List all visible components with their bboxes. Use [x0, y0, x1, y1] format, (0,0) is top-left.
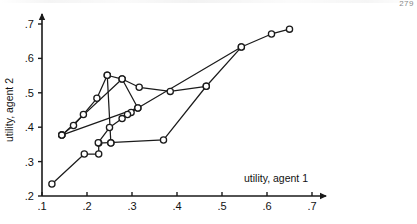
utility-scatter-plot: .2.3.4.5.6.7.1.2.3.4.5.6.7 utility, agen…	[0, 0, 417, 224]
x-tick-label: .6	[262, 200, 271, 212]
data-point-marker	[70, 122, 76, 128]
y-tick-label: .4	[25, 121, 34, 133]
data-point-marker	[95, 140, 101, 146]
x-tick-label: .3	[127, 200, 136, 212]
y-tick-label: .6	[25, 52, 34, 64]
y-tick-label: .7	[25, 18, 34, 30]
data-point-marker	[238, 44, 244, 50]
data-series	[49, 26, 293, 187]
data-point-marker	[81, 151, 87, 157]
series-polyline	[62, 47, 242, 135]
data-point-marker	[136, 84, 142, 90]
data-point-marker	[94, 95, 100, 101]
data-point-marker	[135, 105, 141, 111]
data-point-marker	[119, 76, 125, 82]
x-tick-label: .7	[307, 200, 316, 212]
x-tick-label: .1	[37, 200, 46, 212]
data-point-marker	[167, 88, 173, 94]
page-number: 279	[399, 0, 414, 8]
x-axis-title: utility, agent 1	[244, 172, 308, 184]
data-point-marker	[286, 26, 292, 32]
data-point-marker	[160, 137, 166, 143]
chart-figure: 279 .2.3.4.5.6.7.1.2.3.4.5.6.7 utility, …	[0, 0, 417, 224]
data-point-marker	[59, 132, 65, 138]
data-point-marker	[49, 181, 55, 187]
data-point-marker	[119, 116, 125, 122]
data-point-marker	[108, 140, 114, 146]
scan-artifact-band	[0, 0, 417, 3]
axis-labels: utility, agent 1utility, agent 2	[3, 78, 308, 184]
data-point-marker	[80, 111, 86, 117]
y-axis-title: utility, agent 2	[3, 78, 15, 142]
series-polyline	[52, 29, 290, 184]
x-tick-label: .2	[82, 200, 91, 212]
y-tick-label: .2	[25, 190, 34, 202]
series-polyline	[62, 79, 138, 143]
x-tick-label: .4	[172, 200, 181, 212]
data-point-marker	[104, 72, 110, 78]
data-point-marker	[106, 124, 112, 130]
y-tick-label: .5	[25, 87, 34, 99]
data-point-marker	[203, 83, 209, 89]
y-tick-label: .3	[25, 156, 34, 168]
x-tick-label: .5	[217, 200, 226, 212]
data-point-marker	[124, 111, 130, 117]
x-axis-arrow	[320, 193, 327, 199]
y-axis-arrow	[39, 13, 45, 20]
data-point-marker	[96, 151, 102, 157]
data-point-marker	[268, 31, 274, 37]
